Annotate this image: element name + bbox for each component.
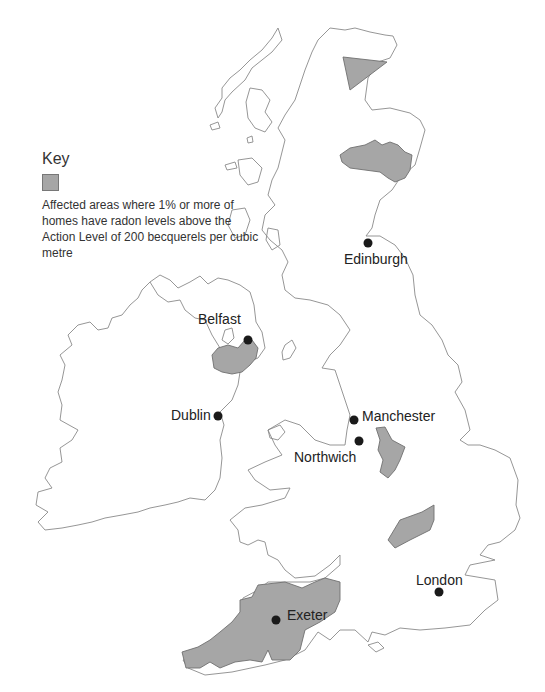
city-dot-exeter (272, 616, 281, 625)
city-label-edinburgh: Edinburgh (344, 251, 408, 267)
key-title: Key (42, 150, 282, 168)
city-dot-belfast (244, 336, 253, 345)
small-isle-3 (247, 136, 253, 143)
city-dot-edinburgh (364, 239, 373, 248)
city-dot-manchester (350, 416, 359, 425)
isle-of-man-outline (282, 340, 296, 360)
small-isle-1 (210, 122, 220, 130)
city-dot-dublin (214, 412, 223, 421)
city-label-exeter: Exeter (287, 607, 327, 623)
outer-hebrides-outline (215, 28, 282, 118)
affected-area-south-west (182, 578, 340, 668)
map-key: Key Affected areas where 1% or more of h… (42, 150, 282, 261)
city-label-northwich: Northwich (294, 449, 356, 465)
city-label-belfast: Belfast (198, 311, 241, 327)
city-label-dublin: Dublin (171, 407, 211, 423)
key-description: Affected areas where 1% or more of homes… (42, 197, 267, 261)
key-swatch (42, 174, 59, 191)
city-label-london: London (416, 572, 463, 588)
skye-outline (246, 88, 272, 132)
isle-of-wight-outline (368, 642, 384, 652)
city-label-manchester: Manchester (362, 408, 435, 424)
radon-map (0, 0, 545, 692)
city-dot-northwich (355, 437, 364, 446)
city-dot-london (435, 588, 444, 597)
